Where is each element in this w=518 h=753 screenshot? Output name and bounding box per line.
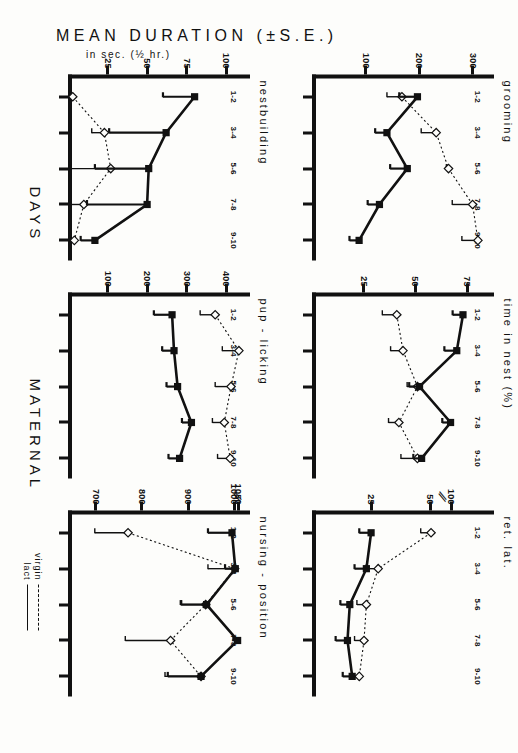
- data-point-virgin: [432, 128, 440, 136]
- panel-pup-licking: 1002003004001-23-45-67-89-10pup - lickin…: [68, 292, 250, 478]
- figure-page: 1002003001-23-45-67-89-10grooming 255075…: [0, 0, 518, 753]
- data-point-virgin: [70, 236, 78, 244]
- legend-label-virgin: virgin: [34, 548, 44, 580]
- panel-nursing-position: 70080090010001050⁄⁄1-23-45-67-89-10nursi…: [68, 510, 250, 696]
- data-point-lact: [356, 236, 363, 243]
- y-axis-label: MEAN DURATION (±S.E.): [56, 26, 338, 44]
- y-tick-label: 75: [462, 276, 472, 287]
- legend-label-lact: lact: [23, 548, 33, 580]
- data-point-virgin: [374, 564, 382, 572]
- panel-grooming: 1002003001-23-45-67-89-10grooming: [312, 74, 494, 260]
- y-tick-label: 100: [221, 53, 231, 69]
- data-point-lact: [145, 164, 152, 171]
- data-point-lact: [176, 454, 183, 461]
- error-bar: [181, 600, 207, 605]
- error-bar: [95, 164, 149, 169]
- plot-area: 1002003004001-23-45-67-89-10: [68, 292, 250, 478]
- data-point-lact: [416, 382, 423, 389]
- series-line-lact: [420, 314, 464, 458]
- data-point-lact: [453, 347, 460, 354]
- series-line-virgin: [402, 96, 478, 240]
- data-point-virgin: [393, 310, 401, 318]
- data-point-lact: [349, 672, 356, 679]
- data-point-virgin: [474, 236, 482, 244]
- y-tick-label: 700: [91, 489, 101, 505]
- y-tick-label: 75: [182, 58, 192, 69]
- y-tick-label: 25: [359, 276, 369, 287]
- legend-swatch-virgin: [38, 584, 39, 630]
- data-point-lact: [418, 454, 425, 461]
- data-point-lact: [203, 600, 210, 607]
- y-tick-label: 400: [221, 271, 231, 287]
- error-bar: [87, 199, 147, 204]
- y-tick-label: 300: [182, 271, 192, 287]
- panel-title: pup - licking: [258, 298, 270, 385]
- data-point-lact: [447, 418, 454, 425]
- data-point-virgin: [227, 382, 235, 390]
- data-point-lact: [376, 200, 383, 207]
- data-point-virgin: [395, 418, 403, 426]
- data-point-virgin: [399, 346, 407, 354]
- caption-maternal: MATERNAL: [27, 378, 44, 491]
- data-point-lact: [404, 164, 411, 171]
- y-tick-label: 200: [414, 53, 424, 69]
- y-tick-label: 800: [137, 489, 147, 505]
- series-layer: [68, 74, 250, 260]
- data-point-virgin: [211, 310, 219, 318]
- data-point-lact: [363, 565, 370, 572]
- panel-title: ret. lat.: [502, 516, 514, 569]
- data-point-lact: [228, 529, 235, 536]
- plot-area: 2550100⁄⁄1-23-45-67-89-10: [312, 510, 494, 696]
- panel-title: nursing - position: [258, 516, 270, 639]
- error-bar: [168, 671, 201, 676]
- data-point-virgin: [355, 672, 363, 680]
- data-point-lact: [383, 129, 390, 136]
- y-tick-label: 50: [410, 276, 420, 287]
- data-point-lact: [144, 200, 151, 207]
- y-axis-label-main: MEAN DURATION (±S.E.): [56, 26, 338, 44]
- data-point-lact: [346, 600, 353, 607]
- data-point-lact: [163, 129, 170, 136]
- legend-row-lact: lact: [22, 548, 33, 630]
- data-point-lact: [197, 672, 204, 679]
- data-point-lact: [459, 311, 466, 318]
- panel-title: grooming: [502, 80, 514, 143]
- plot-area: 2550751001-23-45-67-89-10: [68, 74, 250, 260]
- figure-canvas: 1002003001-23-45-67-89-10grooming 255075…: [0, 0, 518, 753]
- legend-swatch-lact: [27, 584, 28, 630]
- data-point-virgin: [427, 528, 435, 536]
- data-point-virgin: [362, 600, 370, 608]
- series-layer: [312, 74, 494, 260]
- data-point-lact: [232, 565, 239, 572]
- y-tick-label: 900: [183, 489, 193, 505]
- panel-title: nestbuilding: [258, 80, 270, 165]
- data-point-virgin: [124, 528, 132, 536]
- data-point-lact: [188, 418, 195, 425]
- y-tick-label: 100: [103, 271, 113, 287]
- data-point-lact: [191, 93, 198, 100]
- data-point-lact: [414, 93, 421, 100]
- series-layer: [312, 292, 494, 478]
- error-bar: [125, 635, 170, 640]
- caption-days: DAYS: [27, 186, 44, 242]
- data-point-virgin: [360, 636, 368, 644]
- error-bar: [163, 92, 195, 97]
- series-layer: [68, 510, 250, 696]
- y-axis-sublabel: in sec. (½ hr.): [86, 48, 171, 59]
- y-tick-label: 100: [361, 53, 371, 69]
- y-tick-label: 300: [468, 53, 478, 69]
- series-layer: [312, 510, 494, 696]
- data-point-lact: [234, 636, 241, 643]
- data-point-virgin: [220, 418, 228, 426]
- data-point-virgin: [444, 164, 452, 172]
- data-point-lact: [91, 236, 98, 243]
- data-point-lact: [168, 311, 175, 318]
- error-bar: [95, 528, 128, 533]
- data-point-lact: [344, 636, 351, 643]
- y-tick-label: 200: [142, 271, 152, 287]
- panel-nestbuilding: 2550751001-23-45-67-89-10nestbuilding: [68, 74, 250, 260]
- data-point-virgin: [226, 454, 234, 462]
- error-bar: [208, 528, 232, 533]
- plot-area: 1002003001-23-45-67-89-10: [312, 74, 494, 260]
- panel-title: time in nest (%): [502, 298, 514, 410]
